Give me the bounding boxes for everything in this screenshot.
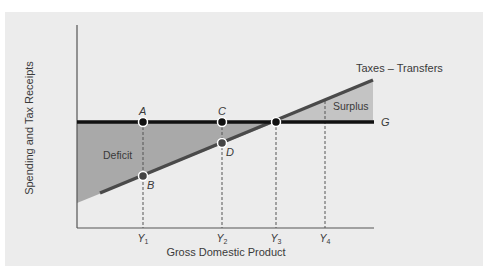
point-b-label: B — [147, 180, 154, 191]
g-label: G — [381, 117, 390, 128]
tick-y2: Y2 — [217, 233, 228, 245]
tick-y3: Y3 — [271, 233, 282, 245]
tick-y1: Y1 — [138, 233, 149, 245]
point-intersection — [272, 118, 281, 127]
point-c — [218, 118, 227, 127]
point-a — [139, 118, 148, 127]
y-axis-label: Spending and Tax Receipts — [23, 61, 35, 195]
tick-y4: Y4 — [320, 233, 331, 245]
x-axis-label: Gross Domestic Product — [166, 246, 285, 258]
taxes-transfers-label: Taxes – Transfers — [356, 63, 443, 74]
point-c-label: C — [218, 106, 226, 117]
point-d-label: D — [226, 147, 234, 158]
chart-canvas — [0, 0, 502, 278]
surplus-label: Surplus — [333, 101, 369, 112]
deficit-label: Deficit — [103, 150, 132, 161]
point-a-label: A — [139, 106, 146, 117]
